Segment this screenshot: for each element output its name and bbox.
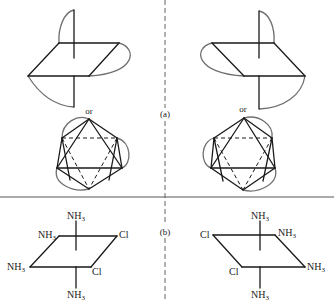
- ligand-back-left-right: Cl: [200, 229, 210, 240]
- ligand-bottom-right: NH3: [251, 289, 269, 302]
- panel-label-b: (b): [160, 227, 171, 237]
- chelate-arc-bottom: [259, 76, 305, 109]
- chelate-arc-left: [201, 43, 244, 76]
- chelate-arc-top: [259, 11, 274, 43]
- or-label-right: or: [239, 104, 247, 114]
- octahedron-face-left: [56, 118, 129, 190]
- chelate-arc-top: [59, 10, 74, 43]
- ligand-back-left-left: NH3: [38, 229, 56, 242]
- ligand-front-left-left: NH3: [7, 261, 25, 274]
- octahedron-face-right: [203, 117, 276, 191]
- panel-label-a: (a): [160, 109, 170, 119]
- ligand-bottom-left: NH3: [67, 289, 85, 302]
- ligand-back-right-right: NH3: [278, 227, 296, 240]
- diagram-canvas: (a) (b) or or: [0, 0, 334, 306]
- ligand-front-left-right: Cl: [229, 266, 239, 277]
- octahedron-perspective-left: [28, 10, 130, 107]
- octahedron-perspective-right: [201, 11, 305, 109]
- ligand-front-right-right: NH3: [307, 261, 325, 274]
- enantiomer-figure: (a) (b) or or: [0, 0, 334, 306]
- ligand-front-right-left: Cl: [92, 266, 102, 277]
- ligand-back-right-left: Cl: [119, 229, 129, 240]
- or-label-left: or: [85, 106, 93, 116]
- chelate-arc-right: [89, 43, 130, 76]
- chelate-arc-bottom: [28, 76, 74, 107]
